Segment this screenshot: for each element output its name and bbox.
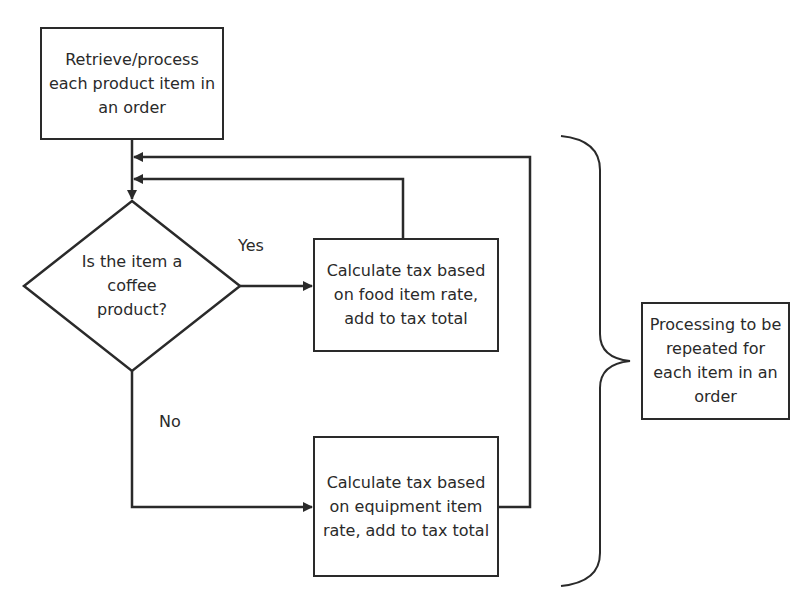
food-tax-text: Calculate tax based on food item rate, a… [321,259,491,331]
curly-brace [561,136,630,586]
start-box-text: Retrieve/process each product item in an… [48,48,216,120]
food-tax-box: Calculate tax based on food item rate, a… [313,238,499,352]
no-label: No [159,412,181,431]
note-box: Processing to be repeated for each item … [641,302,790,420]
equipment-tax-box: Calculate tax based on equipment item ra… [313,436,499,577]
note-text: Processing to be repeated for each item … [649,313,782,409]
start-box: Retrieve/process each product item in an… [40,27,224,140]
equipment-tax-text: Calculate tax based on equipment item ra… [321,471,491,543]
arrow-no [132,371,312,507]
arrow-food-loop-back [134,179,403,238]
decision-text: Is the item a coffee product? [72,250,192,322]
yes-label: Yes [238,236,264,255]
